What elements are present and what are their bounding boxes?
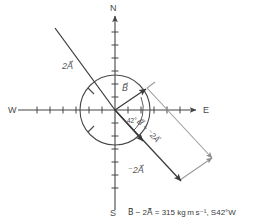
axis-group — [18, 16, 196, 210]
label-neg-2a: ⁻2A⃗ — [128, 166, 144, 175]
construction-line-bottom — [180, 158, 212, 180]
compass-label-north: N — [110, 3, 117, 13]
figure-caption: B⃗ − 2A⃗ = 315 kg m s⁻¹, S42°W — [128, 209, 236, 217]
label-2a: 2A⃗ — [62, 62, 73, 71]
compass-label-east: E — [203, 105, 209, 115]
construction-line-side — [147, 82, 155, 88]
compass-label-south: S — [110, 208, 116, 218]
label-angle-42: 42° — [127, 118, 137, 125]
label-b: B⃗ — [122, 84, 128, 93]
construction-lines — [147, 82, 212, 180]
vector-diagram-canvas: N S W E — [0, 0, 265, 224]
construction-line-top — [147, 88, 212, 158]
compass-label-west: W — [8, 105, 17, 115]
